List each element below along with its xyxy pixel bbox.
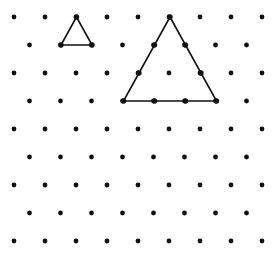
lattice-dot[interactable] [260, 71, 265, 76]
lattice-dot[interactable] [213, 211, 218, 216]
large-triangle-edge-dot[interactable] [152, 98, 157, 103]
geoboard-figure [0, 0, 279, 255]
lattice-dot[interactable] [27, 43, 32, 48]
lattice-dot[interactable] [58, 211, 63, 216]
lattice-dot[interactable] [198, 239, 203, 244]
lattice-dot[interactable] [43, 183, 48, 188]
large-triangle-edge-dot[interactable] [136, 70, 141, 75]
lattice-dot[interactable] [105, 239, 110, 244]
lattice-dot[interactable] [89, 211, 94, 216]
lattice-dot[interactable] [229, 127, 234, 132]
lattice-dot[interactable] [43, 71, 48, 76]
lattice-dot[interactable] [120, 155, 125, 160]
lattice-dot[interactable] [244, 99, 249, 104]
lattice-dot[interactable] [43, 239, 48, 244]
lattice-dot[interactable] [167, 239, 172, 244]
lattice-dot[interactable] [74, 183, 79, 188]
lattice-dot[interactable] [136, 183, 141, 188]
lattice-dot[interactable] [58, 155, 63, 160]
lattice-dot[interactable] [136, 239, 141, 244]
lattice-dot[interactable] [229, 71, 234, 76]
lattice-dot[interactable] [12, 127, 17, 132]
large-triangle-edge-dot[interactable] [198, 70, 203, 75]
lattice-dot[interactable] [89, 155, 94, 160]
lattice-dot[interactable] [229, 183, 234, 188]
lattice-dot[interactable] [198, 183, 203, 188]
lattice-dot[interactable] [167, 71, 172, 76]
large-triangle-edge-dot[interactable] [214, 98, 219, 103]
lattice-dot[interactable] [120, 43, 125, 48]
lattice-dot[interactable] [12, 71, 17, 76]
lattice-dot[interactable] [244, 211, 249, 216]
lattice-dot[interactable] [89, 99, 94, 104]
lattice-dot[interactable] [198, 15, 203, 20]
lattice-dot[interactable] [229, 239, 234, 244]
lattice-dot[interactable] [244, 155, 249, 160]
small-triangle-edge-dot[interactable] [58, 42, 63, 47]
lattice-dot[interactable] [182, 155, 187, 160]
geoboard-canvas [0, 0, 279, 255]
lattice-dot[interactable] [151, 155, 156, 160]
lattice-dot[interactable] [260, 15, 265, 20]
lattice-dot[interactable] [260, 183, 265, 188]
lattice-dot[interactable] [105, 183, 110, 188]
lattice-dot[interactable] [136, 127, 141, 132]
lattice-dot[interactable] [74, 127, 79, 132]
lattice-dot[interactable] [136, 15, 141, 20]
large-triangle-edge-dot[interactable] [183, 42, 188, 47]
lattice-dot[interactable] [27, 211, 32, 216]
lattice-dot[interactable] [260, 239, 265, 244]
lattice-dot[interactable] [74, 71, 79, 76]
large-triangle-edge-dot[interactable] [167, 14, 172, 19]
lattice-dot[interactable] [27, 99, 32, 104]
lattice-dot[interactable] [260, 127, 265, 132]
lattice-dot[interactable] [120, 211, 125, 216]
large-triangle-edge-dot[interactable] [121, 98, 126, 103]
lattice-dot[interactable] [167, 183, 172, 188]
large-triangle-edge-dot[interactable] [152, 42, 157, 47]
lattice-dot[interactable] [105, 127, 110, 132]
lattice-dot[interactable] [12, 183, 17, 188]
small-triangle-edge-dot[interactable] [89, 42, 94, 47]
lattice-dot[interactable] [198, 127, 203, 132]
lattice-dot[interactable] [27, 155, 32, 160]
lattice-dot[interactable] [151, 211, 156, 216]
large-triangle-edge-dot[interactable] [183, 98, 188, 103]
lattice-dot[interactable] [213, 155, 218, 160]
lattice-dot[interactable] [105, 15, 110, 20]
lattice-dot[interactable] [43, 15, 48, 20]
lattice-dot[interactable] [43, 127, 48, 132]
lattice-dot[interactable] [58, 99, 63, 104]
lattice-dot[interactable] [167, 127, 172, 132]
lattice-dot[interactable] [12, 239, 17, 244]
lattice-dot[interactable] [182, 211, 187, 216]
lattice-dot[interactable] [74, 239, 79, 244]
lattice-dot[interactable] [244, 43, 249, 48]
small-triangle-edge-dot[interactable] [74, 14, 79, 19]
lattice-dot[interactable] [12, 15, 17, 20]
lattice-dot[interactable] [105, 71, 110, 76]
lattice-dot[interactable] [213, 43, 218, 48]
lattice-dot[interactable] [229, 15, 234, 20]
